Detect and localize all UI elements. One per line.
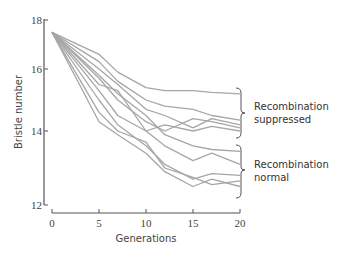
x-tick-0: 0 [49, 217, 55, 229]
x-tick-10: 10 [141, 217, 153, 229]
y-tick-12: 12 [31, 199, 42, 211]
bracket-normal [236, 145, 245, 198]
y-axis-label: Bristle number [13, 74, 24, 149]
x-axis-label: Generations [116, 233, 177, 244]
data-lines [52, 32, 240, 186]
y-ticks: 18 16 14 12 [31, 14, 48, 211]
annotation-suppressed: Recombination suppressed [254, 100, 329, 126]
y-tick-14: 14 [31, 125, 43, 137]
annotation-normal-line1: Recombination [254, 158, 329, 171]
annotation-normal-line2: normal [254, 171, 329, 184]
x-tick-5: 5 [96, 217, 102, 229]
x-tick-20: 20 [235, 217, 247, 229]
annotation-suppressed-line2: suppressed [254, 113, 329, 126]
x-tick-15: 15 [188, 217, 200, 229]
y-tick-16: 16 [31, 63, 43, 75]
series-line-normal-2 [52, 32, 240, 164]
bristle-chart: 18 16 14 12 Bristle number 0 5 10 15 20 … [0, 0, 343, 253]
annotation-normal: Recombination normal [254, 158, 329, 184]
annotation-suppressed-line1: Recombination [254, 100, 329, 113]
y-tick-18: 18 [31, 14, 43, 26]
x-ticks: 0 5 10 15 20 [49, 209, 246, 229]
